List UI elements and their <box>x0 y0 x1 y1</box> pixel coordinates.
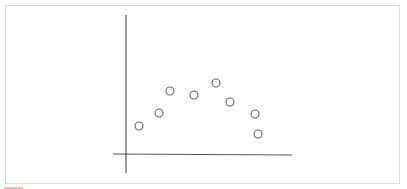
x-axis <box>113 154 292 155</box>
data-point <box>226 98 234 106</box>
data-point <box>190 91 198 99</box>
data-point <box>251 110 259 118</box>
scatter-plot <box>0 0 407 189</box>
data-point <box>135 122 143 130</box>
data-points <box>135 79 262 138</box>
data-point <box>155 109 163 117</box>
data-point <box>254 130 262 138</box>
data-point <box>212 79 220 87</box>
data-point <box>166 87 174 95</box>
